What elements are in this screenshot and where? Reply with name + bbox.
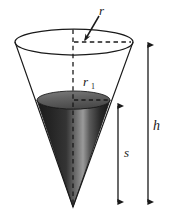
radius-leader-arrow [85, 16, 99, 40]
label-inner-radius-group: r 1 [83, 74, 95, 91]
label-inner-radius-subscript: 1 [91, 82, 95, 91]
label-radius-top: r [99, 3, 105, 18]
label-inner-radius-base: r [83, 74, 89, 89]
cone-diagram-canvas: r r 1 s h [0, 0, 170, 221]
label-height-h: h [153, 118, 160, 133]
cone-diagram-figure: r r 1 s h [0, 0, 170, 221]
label-slant-s: s [124, 145, 129, 160]
